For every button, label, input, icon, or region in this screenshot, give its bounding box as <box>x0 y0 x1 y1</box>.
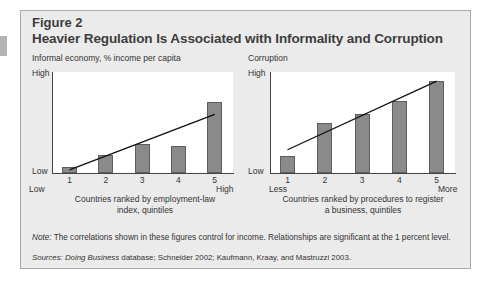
figure-sources: Sources: Doing Business database; Schnei… <box>32 253 351 262</box>
sources-text: database; Schneider 2002; Kaufmann, Kraa… <box>119 253 351 262</box>
note-label: Note: <box>32 233 52 242</box>
note-text: The correlations shown in these figures … <box>52 233 451 242</box>
sources-database-name: Doing Business <box>65 253 119 262</box>
right-trendline <box>288 81 437 150</box>
left-trendline <box>70 114 215 170</box>
sources-label: Sources: <box>32 253 63 262</box>
figure-note: Note: The correlations shown in these fi… <box>32 233 451 242</box>
trendlines <box>0 0 483 290</box>
